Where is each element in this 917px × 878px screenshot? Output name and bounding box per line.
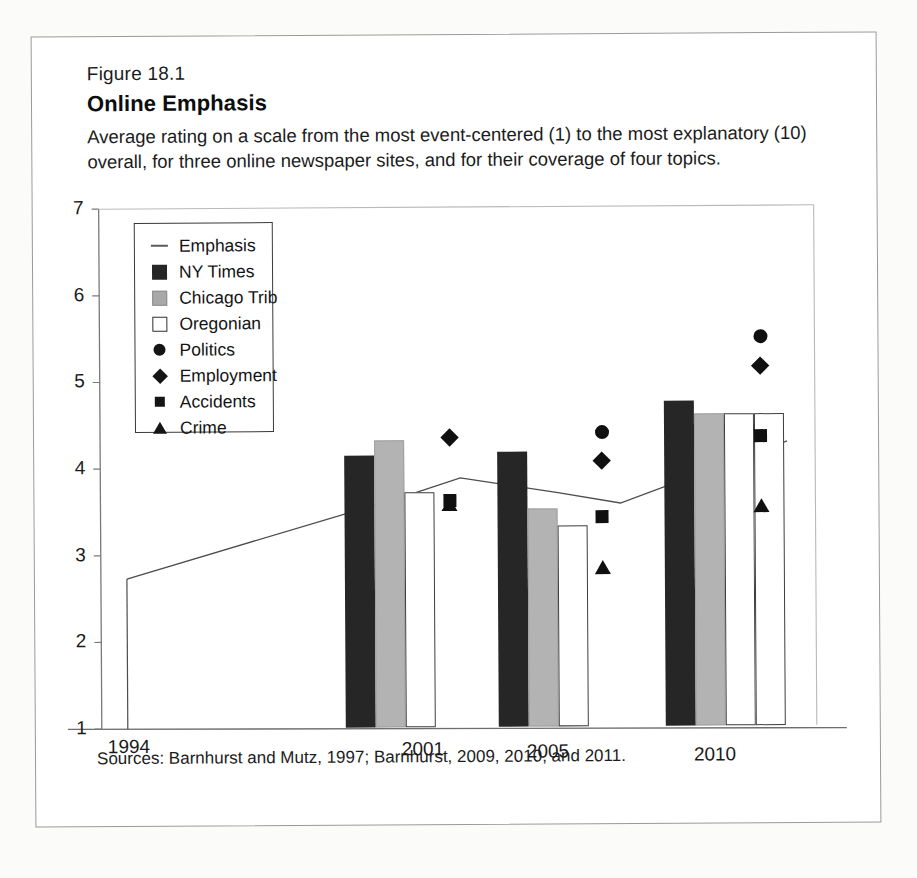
bar-2001-oregonian (404, 492, 435, 727)
marker-2010-accidents (754, 429, 767, 442)
marker-2005-accidents (595, 510, 608, 523)
legend-item-ny-times: NY Times (135, 258, 272, 285)
bar-2001-chicago-trib (374, 440, 406, 727)
figure-content: Figure 18.1 Online Emphasis Average rati… (31, 31, 882, 827)
y-tick-label-2: 2 (52, 630, 86, 652)
legend-item-chicago-trib: Chicago Trib (135, 284, 272, 311)
square-filled-icon (148, 264, 170, 279)
marker-2005-politics (595, 425, 609, 439)
marker-2010-crime (753, 498, 769, 512)
legend-label-employment: Employment (180, 365, 277, 387)
bar-2005-ny-times (497, 452, 529, 727)
legend-item-accidents: Accidents (136, 388, 273, 415)
legend-label-accidents: Accidents (180, 391, 256, 412)
plot-top-border (99, 205, 814, 209)
triangle-icon (149, 422, 171, 434)
x-axis (68, 725, 847, 733)
y-tick-label-4: 4 (51, 457, 85, 479)
line-icon (148, 245, 170, 247)
x-tick-label-2010: 2010 (680, 743, 750, 765)
legend-label-politics: Politics (179, 339, 235, 360)
y-tick-label-1: 1 (53, 717, 87, 739)
y-tick-label-7: 7 (50, 197, 84, 219)
legend-label-chicago-trib: Chicago Trib (179, 287, 277, 309)
legend-item-oregonian: Oregonian (135, 310, 272, 337)
diamond-icon (149, 370, 171, 381)
legend-item-employment: Employment (136, 362, 273, 389)
bar-2010-chicago-trib (694, 413, 726, 725)
marker-2010-politics (753, 329, 767, 343)
legend-label-ny-times: NY Times (179, 261, 255, 282)
y-tick-label-3: 3 (52, 544, 86, 566)
bar-2005-oregonian (558, 525, 589, 726)
square-open-icon (148, 316, 170, 331)
square-gray-icon (148, 290, 170, 305)
legend-label-oregonian: Oregonian (179, 313, 261, 334)
chart-legend: Emphasis NY Times Chicago Trib Oregonian… (134, 222, 274, 433)
bar-2010-oregonian (724, 413, 756, 725)
y-tick-label-5: 5 (51, 370, 85, 392)
legend-label-crime: Crime (180, 417, 227, 438)
legend-item-politics: Politics (135, 336, 272, 363)
bar-2005-chicago-trib (527, 508, 558, 726)
y-tick-label-6: 6 (50, 284, 84, 306)
bar-2010-oregonian-outer (754, 413, 786, 725)
bar-2001-ny-times (344, 456, 376, 728)
legend-label-emphasis: Emphasis (179, 235, 256, 256)
figure-source: Sources: Barnhurst and Mutz, 1997; Barnh… (97, 746, 626, 769)
bar-2010-ny-times (664, 401, 696, 726)
emphasis-line-drop (127, 579, 128, 729)
legend-item-crime: Crime (136, 414, 273, 441)
plot-right-border (814, 205, 817, 725)
square-small-icon (149, 397, 171, 407)
circle-icon (148, 344, 170, 356)
marker-2005-crime (595, 560, 611, 574)
chart-plot-area: 7 6 5 4 3 2 1 1994 20 (31, 31, 882, 827)
marker-2001-crime (441, 497, 457, 511)
legend-item-emphasis: Emphasis (135, 232, 272, 259)
